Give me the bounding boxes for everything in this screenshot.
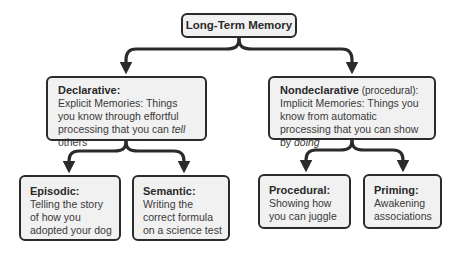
node-description: Awakening associations <box>374 197 434 223</box>
node-long-term-memory: Long-Term Memory <box>181 13 297 38</box>
node-title: Procedural: <box>269 184 343 197</box>
node-description: Telling the story of how you adopted you… <box>30 198 113 237</box>
node-description: Showing how you can juggle <box>269 197 343 223</box>
node-title: Nondeclarative <box>280 84 359 96</box>
node-title: Declarative: <box>58 84 120 96</box>
arrow-root-to-declarative <box>126 38 239 68</box>
node-title: Episodic: <box>30 185 113 198</box>
node-procedural: Procedural: Showing how you can juggle <box>258 174 351 229</box>
node-label: Long-Term Memory <box>186 19 293 31</box>
arrow-root-to-nondeclarative <box>239 38 352 68</box>
node-qualifier: (procedural): <box>359 85 418 96</box>
node-title: Semantic: <box>143 185 222 198</box>
node-description: Writing the correct formula on a science… <box>143 198 222 237</box>
node-episodic: Episodic: Telling the story of how you a… <box>19 175 121 241</box>
node-description: Explicit Memories: Things you know throu… <box>58 97 197 149</box>
node-description: Implicit Memories: Things you know from … <box>280 97 426 149</box>
node-title: Priming: <box>374 184 434 197</box>
node-declarative: Declarative: Explicit Memories: Things y… <box>46 76 207 141</box>
node-priming: Priming: Awakening associations <box>363 174 442 229</box>
node-semantic: Semantic: Writing the correct formula on… <box>132 175 230 241</box>
node-nondeclarative: Nondeclarative (procedural): Implicit Me… <box>268 76 436 140</box>
